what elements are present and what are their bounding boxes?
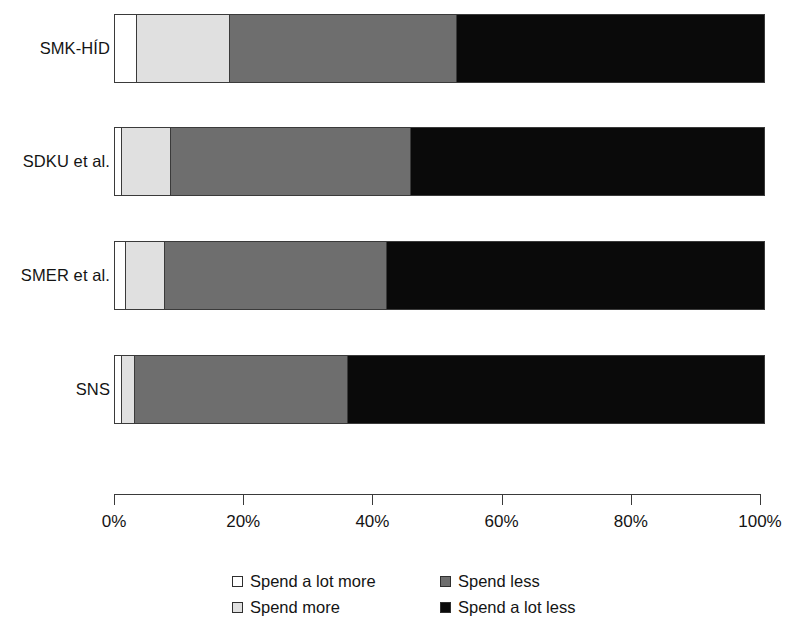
legend-item-spend-a-lot-more: Spend a lot more [232, 572, 426, 591]
bar-segment-spend-a-lot-more [115, 15, 136, 82]
bar-row: SMK-HÍD [0, 14, 796, 83]
bar-segment-spend-less [170, 128, 410, 195]
bar-segment-spend-a-lot-less [386, 242, 764, 309]
legend-swatch-icon [440, 576, 451, 587]
bar-segment-spend-less [229, 15, 456, 82]
x-axis-tick [760, 494, 761, 505]
bar-segment-spend-more [125, 242, 165, 309]
category-label-3: SNS [0, 380, 110, 399]
x-axis-tick [372, 494, 373, 505]
category-label-2: SMER et al. [0, 266, 110, 285]
legend-label: Spend a lot more [250, 572, 376, 591]
x-axis-tick-label-5: 100% [738, 512, 781, 532]
legend-swatch-icon [232, 576, 243, 587]
x-axis-tick [243, 494, 244, 505]
x-axis-tick-label-3: 60% [485, 512, 519, 532]
category-label-1: SDKU et al. [0, 152, 110, 171]
chart-legend: Spend a lot more Spend less Spend more S… [232, 568, 575, 620]
legend-label: Spend less [458, 572, 540, 591]
legend-label: Spend more [250, 598, 340, 617]
bar-segment-spend-a-lot-less [456, 15, 764, 82]
bar-track-2 [114, 241, 765, 310]
legend-label: Spend a lot less [458, 598, 575, 617]
bar-track-1 [114, 127, 765, 196]
x-axis-tick-label-0: 0% [102, 512, 127, 532]
x-axis-tick-label-1: 20% [226, 512, 260, 532]
bar-row: SMER et al. [0, 241, 796, 310]
category-label-0: SMK-HÍD [0, 39, 110, 58]
legend-swatch-icon [232, 602, 243, 613]
bar-segment-spend-a-lot-less [347, 356, 764, 423]
bar-segment-spend-less [134, 356, 347, 423]
x-axis-tick-label-2: 40% [355, 512, 389, 532]
bar-segment-spend-more [121, 356, 134, 423]
x-axis: 0% 20% 40% 60% 80% 100% [114, 494, 760, 495]
x-axis-tick [631, 494, 632, 505]
x-axis-tick [502, 494, 503, 505]
stacked-bar-chart: SMK-HÍD SDKU et al. SMER et al. SNS [0, 0, 796, 637]
legend-swatch-icon [440, 602, 451, 613]
bar-row: SDKU et al. [0, 127, 796, 196]
legend-item-spend-a-lot-less: Spend a lot less [440, 598, 575, 617]
x-axis-tick [114, 494, 115, 505]
bar-track-0 [114, 14, 765, 83]
legend-item-spend-more: Spend more [232, 598, 426, 617]
bar-segment-spend-a-lot-less [410, 128, 764, 195]
bar-segment-spend-more [136, 15, 229, 82]
bar-segment-spend-less [164, 242, 386, 309]
bar-track-3 [114, 355, 765, 424]
legend-item-spend-less: Spend less [440, 572, 575, 591]
bar-segment-spend-a-lot-more [115, 242, 125, 309]
bar-segment-spend-more [121, 128, 170, 195]
bar-row: SNS [0, 355, 796, 424]
x-axis-tick-label-4: 80% [614, 512, 648, 532]
